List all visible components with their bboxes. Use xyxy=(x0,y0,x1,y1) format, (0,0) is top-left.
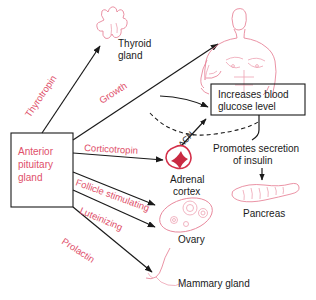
glucose-effect-box: Increases blood glucose level xyxy=(211,84,305,115)
feedback-dashed-curve xyxy=(150,113,258,135)
glucose-effect-line1: Increases blood xyxy=(218,89,289,100)
mammary-gland-icon xyxy=(146,248,182,286)
hormone-label-luteinizing: Luteinizing xyxy=(78,205,124,233)
hormone-label-prolactin: Prolactin xyxy=(60,235,97,264)
anterior-pituitary-box: Anterior pituitary gland xyxy=(11,133,73,207)
anterior-pituitary-label-line3: gland xyxy=(18,172,42,183)
hormone-label-growth: Growth xyxy=(97,80,129,106)
hormone-label-thyrotropin: Thyrotropin xyxy=(23,73,59,119)
insulin-text-line1: Promotes secretion xyxy=(213,143,299,154)
adrenal-cortex-icon xyxy=(166,146,191,169)
thyroid-gland-label-line1: Thyroid xyxy=(118,38,151,49)
glucose-effect-line2: glucose level xyxy=(218,101,276,112)
pancreas-label: Pancreas xyxy=(243,208,285,219)
line-glucose-to-insulin xyxy=(252,115,259,140)
hormone-label-corticotropin: Corticotropin xyxy=(84,142,138,156)
anterior-pituitary-label-line2: pituitary xyxy=(18,159,53,170)
adrenal-cortex-label-line2: cortex xyxy=(173,186,200,197)
thyroid-gland-icon xyxy=(97,7,127,39)
human-torso-icon xyxy=(201,9,276,98)
arrow-growth xyxy=(73,44,218,140)
anterior-pituitary-box-outline xyxy=(11,133,73,207)
hormone-diagram: Anterior pituitary gland Thyrotropin Gro… xyxy=(0,0,316,300)
pancreas-icon xyxy=(232,183,299,201)
ovary-icon xyxy=(156,192,217,238)
mammary-gland-label: Mammary gland xyxy=(178,278,250,289)
insulin-text-line2: of insulin xyxy=(233,155,272,166)
thyroid-gland-label-line2: gland xyxy=(118,50,142,61)
arrow-growth-branch xyxy=(160,96,208,107)
ovary-label: Ovary xyxy=(178,234,205,245)
adrenal-cortex-label-line1: Adrenal xyxy=(170,174,204,185)
anterior-pituitary-label-line1: Anterior xyxy=(18,146,54,157)
